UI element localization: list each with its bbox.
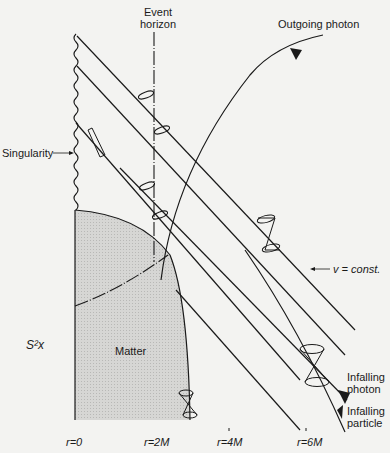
infalling-photon-label-line2: photon [347, 383, 385, 395]
axis-label-r2m: r=2M [144, 436, 169, 448]
infalling-particle-worldline [245, 250, 345, 432]
outgoing-photon-label: Outgoing photon [278, 18, 359, 30]
outgoing-photon-arrow [290, 48, 302, 60]
singularity-line [74, 34, 78, 210]
axis-label-r0: r=0 [66, 436, 82, 448]
axis-label-r4m: r=4M [217, 436, 242, 448]
matter-label: Matter [115, 345, 146, 357]
event-horizon-label: Event horizon [140, 6, 176, 30]
event-horizon-label-line1: Event [140, 6, 176, 18]
event-horizon-label-line2: horizon [140, 18, 176, 30]
infalling-photon-label: Infalling photon [347, 371, 385, 395]
infalling-photon-label-line1: Infalling [347, 371, 385, 383]
infalling-particle-label-line1: Infalling [347, 405, 385, 417]
v-const-text: v = const. [333, 263, 380, 275]
v-const-label: v = const. [333, 263, 380, 275]
v-const-pointer-arrow [310, 267, 315, 271]
spacetime-diagram [0, 0, 390, 453]
axis-label-r6m: r=6M [297, 436, 322, 448]
singularity-label: Singularity [2, 147, 53, 159]
singularity-pointer-arrow [69, 151, 74, 155]
infalling-particle-label-line2: particle [347, 417, 385, 429]
infalling-particle-label: Infalling particle [347, 405, 385, 429]
ingoing-null-line-4 [176, 290, 300, 430]
s2x-label: S²x [26, 339, 44, 351]
matter-region [75, 210, 190, 420]
